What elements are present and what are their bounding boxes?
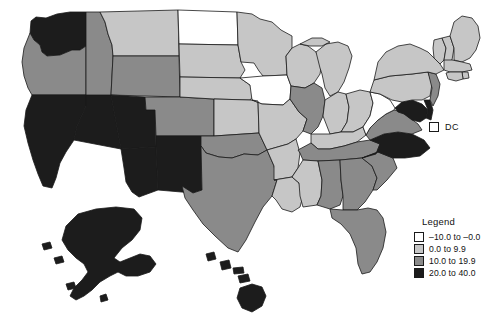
state-ND[interactable] bbox=[178, 10, 238, 45]
legend-swatch-3 bbox=[414, 268, 424, 278]
state-NM[interactable] bbox=[156, 136, 202, 193]
hawaii-inset-group bbox=[206, 252, 266, 312]
dc-marker: DC bbox=[429, 122, 459, 132]
state-ME[interactable] bbox=[450, 16, 480, 62]
alaska-inset-group bbox=[42, 207, 156, 302]
legend-label-3: 20.0 to 40.0 bbox=[429, 268, 476, 278]
hawaii-island-hawaii[interactable] bbox=[237, 284, 266, 312]
legend-title: Legend bbox=[422, 216, 502, 227]
legend-item-3: 20.0 to 40.0 bbox=[414, 268, 502, 278]
hawaii-island-maui[interactable] bbox=[238, 274, 250, 283]
choropleth-map-figure: DC Legend –10.0 to –0.0 0.0 to 9.9 10.0 … bbox=[0, 0, 504, 329]
hawaii-island-molokai[interactable] bbox=[233, 267, 244, 274]
legend-label-1: 0.0 to 9.9 bbox=[429, 244, 466, 254]
legend-label-0: –10.0 to –0.0 bbox=[429, 232, 480, 242]
state-CA[interactable] bbox=[24, 95, 86, 188]
legend-label-2: 10.0 to 19.9 bbox=[429, 256, 476, 266]
state-WI[interactable] bbox=[286, 44, 322, 88]
hawaii-island-kauai[interactable] bbox=[206, 252, 216, 261]
legend-item-2: 10.0 to 19.9 bbox=[414, 256, 502, 266]
state-MN[interactable] bbox=[237, 12, 292, 76]
state-KS[interactable] bbox=[214, 99, 259, 136]
legend: Legend –10.0 to –0.0 0.0 to 9.9 10.0 to … bbox=[414, 216, 502, 280]
state-MA[interactable] bbox=[444, 60, 472, 72]
legend-swatch-1 bbox=[414, 244, 424, 254]
state-SD[interactable] bbox=[179, 44, 245, 78]
legend-item-0: –10.0 to –0.0 bbox=[414, 232, 502, 242]
state-CT[interactable] bbox=[446, 72, 463, 81]
legend-item-1: 0.0 to 9.9 bbox=[414, 244, 502, 254]
legend-swatch-0 bbox=[414, 232, 424, 242]
alaska-island-b[interactable] bbox=[54, 256, 64, 264]
alaska-island-a[interactable] bbox=[42, 242, 52, 250]
alaska-island-d[interactable] bbox=[100, 294, 108, 302]
state-FL[interactable] bbox=[330, 208, 386, 274]
state-AZ[interactable] bbox=[121, 147, 158, 197]
legend-swatch-2 bbox=[414, 256, 424, 266]
state-WY[interactable] bbox=[111, 56, 180, 97]
dc-label: DC bbox=[445, 122, 459, 132]
dc-swatch bbox=[429, 122, 439, 132]
hawaii-island-oahu[interactable] bbox=[220, 260, 231, 270]
state-AK[interactable] bbox=[62, 207, 156, 300]
